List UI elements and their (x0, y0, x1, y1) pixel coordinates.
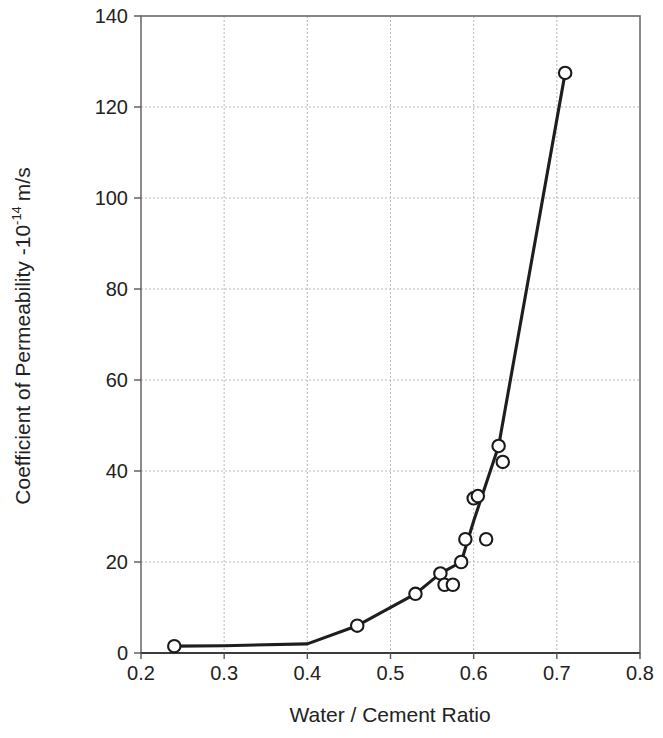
y-tick-label: 60 (106, 369, 128, 391)
y-axis-title-units: m/s (11, 167, 34, 201)
x-tick-label: 0.6 (460, 662, 488, 684)
y-tick-label: 80 (106, 278, 128, 300)
data-point-marker (492, 440, 504, 452)
y-axis-title-exponent: -14 (9, 206, 24, 225)
x-axis-title: Water / Cement Ratio (289, 703, 490, 726)
y-tick-label: 120 (95, 96, 128, 118)
data-point-marker (409, 588, 421, 600)
chart-figure: 0.20.30.40.50.60.70.8 020406080100120140… (0, 0, 663, 738)
data-point-marker (459, 533, 471, 545)
y-tick-label: 0 (117, 642, 128, 664)
data-point-marker (480, 533, 492, 545)
data-point-marker (559, 67, 571, 79)
x-tick-label: 0.3 (210, 662, 238, 684)
y-tick-label: 140 (95, 5, 128, 27)
data-point-marker (472, 490, 484, 502)
x-tick-label: 0.7 (543, 662, 571, 684)
data-point-marker (497, 456, 509, 468)
y-tick-label: 40 (106, 460, 128, 482)
data-point-marker (455, 556, 467, 568)
data-point-marker (168, 640, 180, 652)
y-tick-label: 20 (106, 551, 128, 573)
x-tick-label: 0.5 (377, 662, 405, 684)
x-tick-label: 0.2 (127, 662, 155, 684)
x-tick-label: 0.4 (293, 662, 321, 684)
data-point-marker (447, 579, 459, 591)
x-tick-label: 0.8 (626, 662, 654, 684)
y-axis-title-text: Coefficient of Permeability -10 (11, 225, 34, 505)
y-tick-label: 100 (95, 187, 128, 209)
data-point-marker (351, 620, 363, 632)
permeability-scatter-chart: 0.20.30.40.50.60.70.8 020406080100120140… (0, 0, 663, 738)
